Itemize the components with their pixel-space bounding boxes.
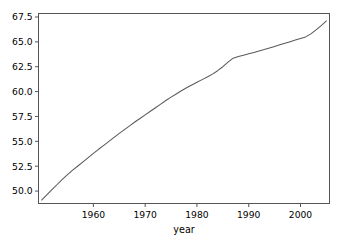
y-tick-label: 52.5 bbox=[12, 161, 33, 172]
line-chart: 50.052.555.057.560.062.565.067.5 1960197… bbox=[0, 0, 343, 247]
y-tick-label: 50.0 bbox=[12, 185, 33, 196]
y-tick-label: 65.0 bbox=[12, 36, 33, 47]
y-tick-label: 55.0 bbox=[12, 136, 33, 147]
y-tick-label: 62.5 bbox=[12, 61, 33, 72]
plot-area-background bbox=[39, 14, 330, 204]
chart-figure: 50.052.555.057.560.062.565.067.5 1960197… bbox=[0, 0, 343, 247]
y-tick-label: 60.0 bbox=[12, 86, 33, 97]
x-tick-label: 1970 bbox=[133, 209, 157, 220]
y-tick-label: 67.5 bbox=[12, 11, 33, 22]
x-tick-label: 1960 bbox=[82, 209, 106, 220]
x-tick-label: 1990 bbox=[237, 209, 261, 220]
x-axis-label: year bbox=[173, 224, 194, 235]
y-tick-label: 57.5 bbox=[12, 111, 33, 122]
x-tick-label: 1980 bbox=[185, 209, 209, 220]
x-tick-label: 2000 bbox=[289, 209, 313, 220]
